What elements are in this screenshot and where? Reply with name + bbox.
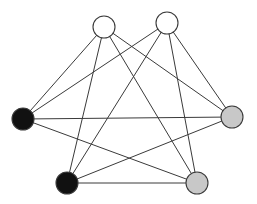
edge-A-E <box>67 27 104 183</box>
node-B-white <box>156 12 178 34</box>
edge-B-E <box>67 23 167 183</box>
edge-B-D <box>167 23 232 117</box>
node-A-white <box>93 16 115 38</box>
edge-E-D <box>67 117 232 183</box>
node-E-black <box>56 172 78 194</box>
edge-A-F <box>104 27 197 183</box>
graph-diagram <box>0 0 257 204</box>
node-F-gray <box>186 172 208 194</box>
node-C-black <box>12 108 34 130</box>
edge-C-F <box>23 119 197 183</box>
edge-B-F <box>167 23 197 183</box>
edge-A-D <box>104 27 232 117</box>
node-D-gray <box>221 106 243 128</box>
edge-C-D <box>23 117 232 119</box>
edges-group <box>23 23 232 183</box>
